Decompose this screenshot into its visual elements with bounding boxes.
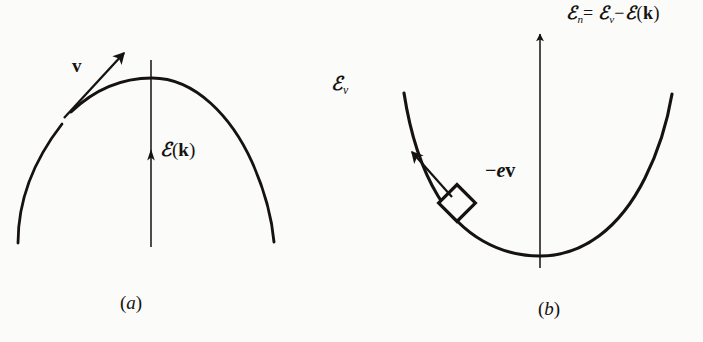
electron-energy-label: ℰ(k) bbox=[160, 140, 195, 159]
hole-marker-diamond bbox=[439, 185, 476, 222]
minus-sign: − bbox=[485, 159, 496, 181]
figure-root: v ℰ(k) ℰv ℰn= ℰv−ℰ(k) −ev (a) (b) bbox=[0, 0, 703, 342]
hole-energy-equation-label: ℰn= ℰv−ℰ(k) bbox=[566, 4, 660, 25]
band-arc-main-segment bbox=[71, 78, 274, 242]
script-e-glyph-1: ℰ bbox=[566, 2, 578, 23]
force-vector-label: −ev bbox=[485, 160, 515, 180]
minus-sign: − bbox=[614, 3, 625, 23]
close-paren: ) bbox=[653, 3, 660, 23]
velocity-symbol: v bbox=[72, 55, 82, 76]
script-e-glyph-2: ℰ bbox=[598, 2, 610, 23]
script-e-glyph: ℰ bbox=[331, 72, 343, 94]
velocity-vector-label: v bbox=[72, 56, 82, 75]
hole-band-arc bbox=[404, 93, 672, 256]
panel-a-caption: (a) bbox=[120, 293, 142, 312]
band-arc-left-segment bbox=[18, 124, 62, 243]
script-e-glyph-3: ℰ bbox=[625, 2, 637, 23]
velocity-symbol: v bbox=[505, 159, 515, 181]
caption-close-paren: ) bbox=[136, 292, 142, 313]
panel-a-drawing bbox=[18, 53, 274, 247]
valence-band-energy-label: ℰv bbox=[331, 74, 348, 97]
force-vector-arrow bbox=[412, 152, 452, 197]
k-vector-symbol: k bbox=[643, 3, 654, 23]
panel-b-caption: (b) bbox=[538, 299, 560, 318]
caption-close-paren: ) bbox=[554, 298, 560, 319]
figure-drawing bbox=[0, 0, 703, 342]
k-vector-symbol: k bbox=[178, 139, 189, 160]
script-e-glyph: ℰ bbox=[160, 138, 172, 160]
panel-b-drawing bbox=[404, 34, 672, 268]
subscript-v: v bbox=[343, 84, 348, 97]
close-paren: ) bbox=[189, 139, 195, 160]
equals-sign: = bbox=[583, 3, 594, 23]
caption-letter: b bbox=[544, 298, 554, 319]
electron-charge-symbol: e bbox=[496, 159, 505, 181]
caption-letter: a bbox=[126, 292, 136, 313]
